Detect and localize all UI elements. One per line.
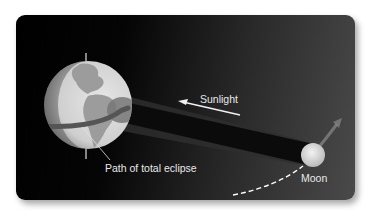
moon-icon xyxy=(301,143,325,167)
moon-label: Moon xyxy=(301,172,327,184)
moon-orbit-path xyxy=(233,166,303,195)
diagram-panel: Sunlight Path of total eclipse Moon xyxy=(16,15,355,200)
sunlight-label: Sunlight xyxy=(200,93,238,105)
orbit-direction-arrow-icon xyxy=(318,124,337,148)
path-of-eclipse-label: Path of total eclipse xyxy=(105,162,197,174)
earth-icon xyxy=(44,61,137,149)
